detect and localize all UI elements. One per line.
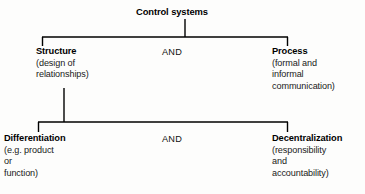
node-differentiation: Differentiation (e.g. product or functio… (4, 133, 66, 179)
node-structure-title: Structure (36, 46, 89, 58)
node-decentralization-title: Decentralization (272, 133, 342, 145)
node-decentralization-desc-line-1: (responsibility (272, 145, 342, 157)
node-decentralization-desc-line-3: accountability) (272, 168, 342, 180)
node-differentiation-desc-line-3: function) (4, 168, 66, 180)
node-structure-desc-line-1: (design of (36, 58, 89, 70)
node-process-title: Process (272, 46, 335, 58)
node-process-desc-line-2: informal (272, 69, 335, 81)
root-node-label: Control systems (136, 6, 208, 17)
node-process: Process (formal and informal communicati… (272, 46, 335, 92)
node-process-desc-line-3: communication) (272, 81, 335, 93)
node-differentiation-desc-line-1: (e.g. product (4, 145, 66, 157)
node-differentiation-desc-line-2: or (4, 156, 66, 168)
node-decentralization: Decentralization (responsibility and acc… (272, 133, 342, 179)
node-differentiation-title: Differentiation (4, 133, 66, 145)
operator-label-upper: AND (162, 47, 182, 57)
node-decentralization-desc-line-2: and (272, 156, 342, 168)
control-systems-diagram: Control systems AND AND Structure (desig… (0, 0, 365, 194)
node-structure: Structure (design of relationships) (36, 46, 89, 81)
node-process-desc-line-1: (formal and (272, 58, 335, 70)
operator-label-lower: AND (162, 134, 182, 144)
node-structure-desc-line-2: relationships) (36, 69, 89, 81)
